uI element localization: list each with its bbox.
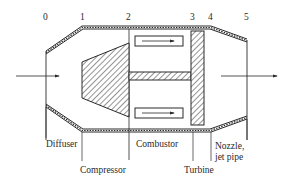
label-combustor: Combustor [136, 139, 178, 149]
station-label-3: 3 [190, 12, 195, 22]
shaft [129, 72, 191, 80]
combustor-chamber-top [135, 36, 183, 46]
station-label-1: 1 [80, 12, 85, 22]
label-turbine: Turbine [184, 165, 214, 175]
label-nozzle-line1: Nozzle, [215, 141, 244, 151]
combustor-chamber-bottom [135, 108, 183, 118]
compressor-body [82, 43, 129, 117]
turbojet-diagram: 0 1 2 3 4 5 Diffuser Compressor Combusto… [0, 0, 289, 182]
station-label-2: 2 [126, 12, 131, 22]
label-diffuser: Diffuser [46, 139, 77, 149]
label-compressor: Compressor [80, 165, 126, 175]
label-nozzle-line2: jet pipe [215, 152, 243, 162]
station-label-5: 5 [244, 12, 249, 22]
station-label-0: 0 [43, 12, 48, 22]
turbine-disk [191, 31, 204, 125]
station-label-4: 4 [208, 12, 213, 22]
engine-drawing [0, 0, 289, 182]
